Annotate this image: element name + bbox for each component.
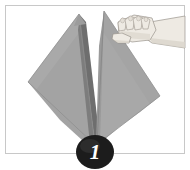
step-illustration: 1 <box>0 0 190 170</box>
fingernail-little <box>144 17 148 21</box>
step-number-label: 1 <box>90 140 101 164</box>
fingernail-ring <box>137 16 141 21</box>
figure-card: 1 <box>0 0 190 170</box>
step-number-badge: 1 <box>76 135 114 169</box>
fingernail-index <box>121 18 125 23</box>
fingernail-middle <box>129 16 133 21</box>
